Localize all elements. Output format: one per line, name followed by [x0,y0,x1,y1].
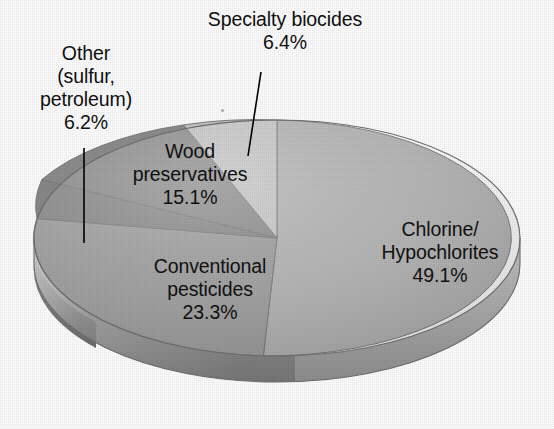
slice-label-conventional-pesticides-value: 23.3% [110,301,310,324]
slice-label-conventional-pesticides-name-2: pesticides [110,278,310,301]
slice-label-specialty-biocides-name: Specialty biocides [170,8,400,31]
slice-label-chlorine-hypochlorites-value: 49.1% [340,264,540,287]
slice-label-other-name-3: petroleum) [6,88,166,111]
slice-label-wood-preservatives-name-1: Wood [105,140,275,163]
pie-chart-figure: Specialty biocides 6.4% Other (sulfur, p… [0,0,554,429]
slice-label-wood-preservatives-value: 15.1% [105,186,275,209]
slice-label-conventional-pesticides-name-1: Conventional [110,255,310,278]
slice-label-specialty-biocides-value: 6.4% [170,31,400,54]
slice-label-chlorine-hypochlorites: Chlorine/ Hypochlorites 49.1% [340,218,540,287]
slice-label-other-value: 6.2% [6,111,166,134]
slice-label-chlorine-hypochlorites-name-1: Chlorine/ [340,218,540,241]
slice-label-wood-preservatives: Wood preservatives 15.1% [105,140,275,209]
slice-label-specialty-biocides: Specialty biocides 6.4% [170,8,400,54]
slice-label-other: Other (sulfur, petroleum) 6.2% [6,42,166,134]
scan-artifact-speck [221,109,224,112]
slice-label-other-name-2: (sulfur, [6,65,166,88]
slice-label-other-name-1: Other [6,42,166,65]
slice-label-chlorine-hypochlorites-name-2: Hypochlorites [340,241,540,264]
slice-label-wood-preservatives-name-2: preservatives [105,163,275,186]
slice-label-conventional-pesticides: Conventional pesticides 23.3% [110,255,310,324]
